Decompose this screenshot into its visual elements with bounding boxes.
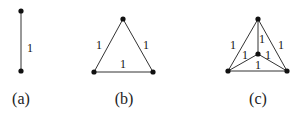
graph-b: 111(b) (91, 16, 155, 108)
graph-diagrams: 1(a)111(b)111111(c) (0, 0, 299, 114)
edge-weight-label: 1 (96, 38, 102, 52)
vertex-node (225, 68, 230, 73)
edge-weight-label: 1 (278, 38, 284, 52)
edge-weight-label: 1 (255, 58, 261, 72)
vertex-node (255, 51, 260, 56)
vertex-node (255, 16, 260, 21)
edge-weight-label: 1 (120, 57, 126, 71)
graph-a: 1(a) (12, 8, 33, 108)
edge-weight-label: 1 (143, 38, 149, 52)
vertex-node (18, 68, 23, 73)
caption-b: (b) (115, 90, 134, 108)
edge-weight-label: 1 (242, 48, 248, 62)
caption-c: (c) (249, 90, 267, 108)
vertex-node (150, 69, 155, 74)
edge-weight-label: 1 (265, 48, 271, 62)
vertex-node (91, 69, 96, 74)
vertex-node (284, 68, 289, 73)
vertex-node (18, 8, 23, 13)
vertex-node (120, 16, 125, 21)
edge-weight-label: 1 (27, 41, 33, 55)
caption-a: (a) (12, 90, 30, 108)
edge-weight-label: 1 (259, 32, 265, 46)
graph-c: 111111(c) (225, 16, 289, 108)
edge-weight-label: 1 (230, 38, 236, 52)
